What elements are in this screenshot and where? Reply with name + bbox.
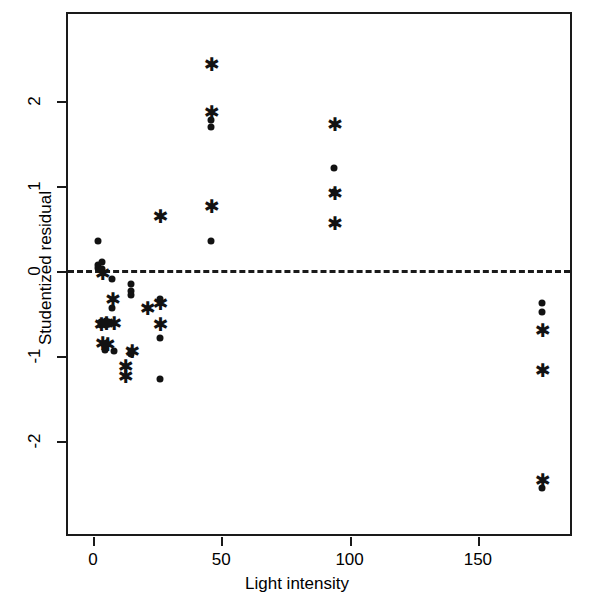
scatter-plot-figure: 210-1-2050100150 Studentized residual Li… — [0, 0, 594, 604]
y-axis-tick — [57, 271, 66, 273]
plot-frame — [66, 12, 572, 536]
y-axis-tick — [57, 356, 66, 358]
x-axis-tick — [93, 537, 95, 546]
zero-reference-line — [68, 270, 570, 273]
x-axis-tick — [350, 537, 352, 546]
x-axis-title: Light intensity — [0, 574, 594, 594]
y-axis-tick — [57, 101, 66, 103]
y-axis-tick — [57, 441, 66, 443]
x-axis-tick — [221, 537, 223, 546]
y-axis-tick — [57, 186, 66, 188]
x-axis-tick-label: 50 — [196, 550, 246, 570]
y-axis-tick-label: -2 — [25, 424, 45, 458]
y-axis-title: Studentized residual — [36, 148, 56, 388]
x-axis-tick — [478, 537, 480, 546]
x-axis-tick-label: 100 — [325, 550, 375, 570]
x-axis-tick-label: 0 — [68, 550, 118, 570]
x-axis-tick-label: 150 — [453, 550, 503, 570]
y-axis-tick-label: 2 — [25, 84, 45, 118]
